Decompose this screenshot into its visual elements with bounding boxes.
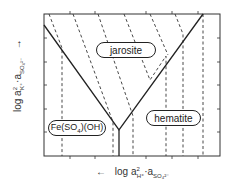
fe-sulfate-label: Fe(SO4)(OH) [51, 122, 103, 134]
y-label-mid: ·a [12, 74, 23, 83]
x-label-mid: ·a [144, 166, 153, 177]
y-label-sub1: K⁺ [19, 83, 25, 90]
fe-sulfate-label-tail: )(OH) [81, 122, 104, 132]
field-label-fe-sulfate-hydroxide: Fe(SO4)(OH) [48, 120, 106, 136]
field-label-hematite: hematite [146, 110, 201, 126]
x-label-prefix: log a [115, 166, 137, 177]
hematite-label: hematite [154, 113, 192, 124]
y-label-sub2: SO₄²⁻ [19, 58, 25, 74]
fe-sulfate-label-head: Fe(SO [51, 122, 78, 132]
x-axis-arrow-icon: ← [96, 166, 106, 177]
field-label-jarosite: jarosite [96, 42, 156, 58]
y-axis-arrow-icon: → [12, 39, 23, 49]
x-label-sup: 2 [136, 166, 139, 172]
ticks [44, 11, 220, 159]
y-axis-label: log a2K⁺·aSO₄²⁻ → [12, 39, 25, 112]
y-label-sup: 2 [12, 87, 18, 90]
x-axis-label: ← log a2H⁺·aSO₄²⁻ [96, 166, 169, 179]
jarosite-label: jarosite [110, 45, 142, 56]
x-label-sub2: SO₄²⁻ [153, 173, 169, 179]
stability-diagram [0, 0, 234, 183]
y-label-prefix: log a [12, 90, 23, 112]
